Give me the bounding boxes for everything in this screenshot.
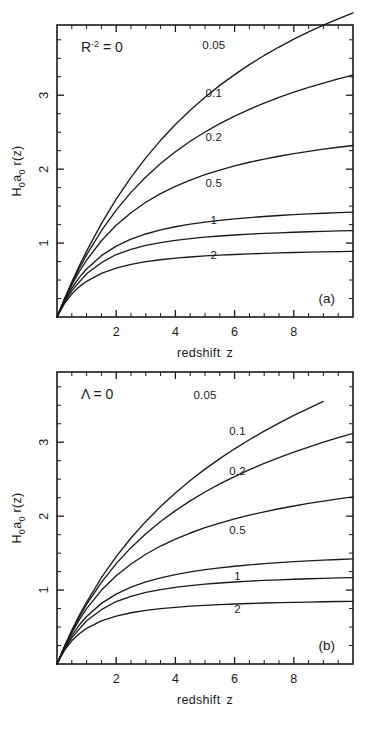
curve-label-1: 1 bbox=[211, 214, 218, 226]
curve-label-0.1: 0.1 bbox=[229, 425, 246, 437]
x-tick-label: 4 bbox=[172, 672, 179, 686]
x-tick-label: 2 bbox=[113, 325, 120, 339]
panel-id-label: (a) bbox=[319, 291, 336, 306]
curve-omega-2 bbox=[57, 251, 353, 317]
x-tick-label: 6 bbox=[231, 325, 238, 339]
curve-label-0.2: 0.2 bbox=[229, 465, 246, 477]
curve-label-0.5: 0.5 bbox=[229, 524, 246, 536]
y-tick-label: 2 bbox=[37, 513, 51, 520]
panel-b-plot: 24681230.050.10.20.512Λ = 0(b)redshiftzH… bbox=[0, 347, 378, 712]
curve-label-0.5: 0.5 bbox=[206, 177, 223, 189]
curve-omega-0.1 bbox=[57, 75, 353, 317]
panel-a-plot: 24681230.050.10.20.512R-2 = 0(a)redshift… bbox=[0, 0, 378, 365]
curve-label-2: 2 bbox=[211, 249, 218, 261]
y-tick-label: 3 bbox=[37, 439, 51, 446]
curve-label-0.05: 0.05 bbox=[202, 39, 225, 51]
curve-omega-0.5 bbox=[57, 212, 353, 317]
panel-annotation: Λ = 0 bbox=[81, 386, 114, 402]
y-axis-title: H0a0 r(z) bbox=[10, 493, 27, 544]
x-axis-title: redshiftz bbox=[177, 693, 233, 707]
annotation-base: R bbox=[81, 39, 91, 55]
y-axis-title-r: r(z) bbox=[10, 493, 24, 517]
figure-root: 24681230.050.10.20.512R-2 = 0(a)redshift… bbox=[0, 0, 378, 730]
x-tick-label: 2 bbox=[113, 672, 120, 686]
panel-a: 24681230.050.10.20.512R-2 = 0(a)redshift… bbox=[0, 0, 378, 365]
curve-label-0.1: 0.1 bbox=[206, 87, 223, 99]
panel-id-label: (b) bbox=[319, 638, 336, 653]
y-axis-title-H: H bbox=[10, 187, 24, 196]
y-axis-title-a: a bbox=[10, 175, 24, 182]
x-tick-label: 8 bbox=[290, 672, 297, 686]
x-tick-label: 8 bbox=[290, 325, 297, 339]
curve-omega-0.1 bbox=[57, 433, 353, 664]
annotation-exponent: -2 bbox=[91, 39, 99, 49]
y-tick-label: 1 bbox=[37, 240, 51, 247]
curve-omega-0.2 bbox=[57, 497, 353, 664]
y-tick-label: 2 bbox=[37, 166, 51, 173]
panel-b: 24681230.050.10.20.512Λ = 0(b)redshiftzH… bbox=[0, 347, 378, 712]
y-tick-label: 3 bbox=[37, 92, 51, 99]
curve-label-0.2: 0.2 bbox=[206, 131, 223, 143]
y-axis-title-a: a bbox=[10, 522, 24, 529]
annotation-rest: = 0 bbox=[90, 386, 114, 402]
curve-omega-0.5 bbox=[57, 559, 353, 664]
x-tick-label: 4 bbox=[172, 325, 179, 339]
y-tick-label: 1 bbox=[37, 587, 51, 594]
y-axis-title: H0a0 r(z) bbox=[10, 146, 27, 197]
curve-label-2: 2 bbox=[234, 603, 241, 615]
curve-omega-0.05 bbox=[57, 13, 353, 317]
annotation-rest: = 0 bbox=[99, 39, 123, 55]
y-axis-title-r: r(z) bbox=[10, 146, 24, 170]
curve-label-0.05: 0.05 bbox=[193, 389, 216, 401]
y-axis-title-H: H bbox=[10, 534, 24, 543]
curve-label-1: 1 bbox=[234, 570, 241, 582]
x-tick-label: 6 bbox=[231, 672, 238, 686]
x-axis-title-word: redshift bbox=[177, 693, 221, 707]
curve-omega-2 bbox=[57, 601, 353, 664]
x-axis-title-variable: z bbox=[226, 693, 233, 707]
panel-annotation: R-2 = 0 bbox=[81, 39, 123, 55]
